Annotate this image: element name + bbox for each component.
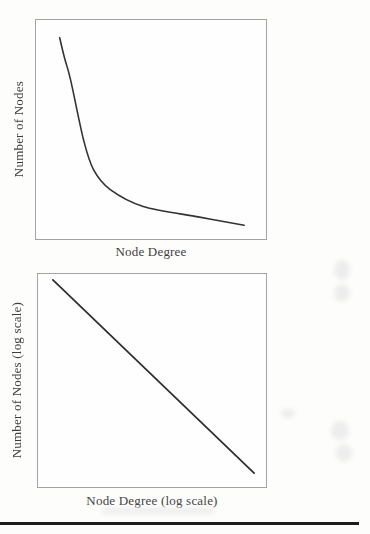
chart-loglog-y-axis-label-text: Number of Nodes (log scale) xyxy=(9,302,25,458)
chart-linear-y-axis-label-text: Number of Nodes xyxy=(11,81,27,177)
chart-loglog-x-axis-label-text: Node Degree (log scale) xyxy=(86,493,217,508)
bleed-through-artifact xyxy=(336,444,352,462)
chart-linear-plot-area xyxy=(35,19,267,240)
chart-loglog-y-axis-label: Number of Nodes (log scale) xyxy=(6,273,28,488)
chart-linear-x-axis-label: Node Degree xyxy=(35,244,267,260)
chart-loglog-plot-area xyxy=(37,273,267,488)
bleed-through-artifact xyxy=(331,421,349,440)
chart-loglog-x-axis-label: Node Degree (log scale) xyxy=(37,493,267,509)
chart-linear-x-axis-label-text: Node Degree xyxy=(115,244,186,259)
chart-linear-y-axis-label: Number of Nodes xyxy=(8,19,30,240)
page-bottom-rule xyxy=(0,522,359,525)
bleed-through-artifact xyxy=(334,284,350,302)
chart-loglog-line xyxy=(38,274,266,487)
bleed-through-artifact xyxy=(281,409,295,418)
bleed-through-artifact xyxy=(334,260,350,280)
chart-linear-curve xyxy=(36,20,266,239)
